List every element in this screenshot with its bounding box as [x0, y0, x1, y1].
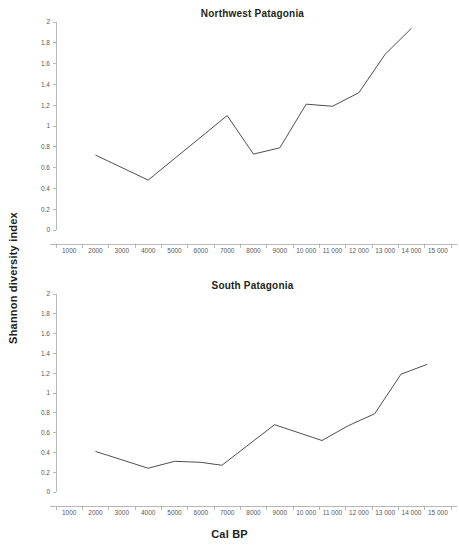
series-line	[96, 364, 428, 468]
svg-text:1.4: 1.4	[41, 350, 50, 357]
svg-text:1000: 1000	[62, 509, 77, 516]
svg-text:1000: 1000	[62, 247, 77, 254]
svg-text:11 000: 11 000	[323, 247, 343, 254]
series-line	[96, 28, 412, 180]
svg-text:1.8: 1.8	[41, 310, 50, 317]
svg-text:5000: 5000	[167, 247, 182, 254]
y-axis-title-container: Shannon diversity index	[0, 0, 26, 555]
svg-text:6000: 6000	[194, 247, 209, 254]
svg-text:0: 0	[46, 488, 50, 495]
svg-text:3000: 3000	[115, 509, 130, 516]
svg-text:2000: 2000	[88, 509, 103, 516]
svg-text:15 000: 15 000	[428, 509, 448, 516]
svg-text:5000: 5000	[167, 509, 182, 516]
svg-text:0.6: 0.6	[41, 164, 50, 171]
svg-text:2: 2	[46, 18, 50, 25]
svg-text:0.2: 0.2	[41, 469, 50, 476]
figure-shannon-diversity: Shannon diversity index Northwest Patago…	[0, 0, 459, 555]
svg-text:3000: 3000	[115, 247, 130, 254]
svg-text:10 000: 10 000	[296, 247, 316, 254]
svg-text:4000: 4000	[141, 247, 156, 254]
svg-text:2000: 2000	[88, 247, 103, 254]
svg-text:1.6: 1.6	[41, 60, 50, 67]
svg-text:9000: 9000	[273, 509, 288, 516]
plot-area-northwest-patagonia: 00.20.40.60.811.21.41.61.821000200030004…	[26, 4, 459, 266]
svg-text:2: 2	[46, 290, 50, 297]
chart-panel-northwest-patagonia: Northwest Patagonia 00.20.40.60.811.21.4…	[26, 4, 459, 266]
svg-text:14 000: 14 000	[402, 509, 422, 516]
y-axis-title: Shannon diversity index	[7, 212, 19, 344]
svg-text:7000: 7000	[220, 247, 235, 254]
svg-text:1: 1	[46, 389, 50, 396]
svg-text:0: 0	[46, 226, 50, 233]
svg-text:0.2: 0.2	[41, 206, 50, 213]
svg-text:11 000: 11 000	[323, 509, 343, 516]
svg-text:8000: 8000	[246, 247, 261, 254]
svg-text:12 000: 12 000	[349, 509, 369, 516]
svg-text:15 000: 15 000	[428, 247, 448, 254]
svg-text:0.4: 0.4	[41, 185, 50, 192]
x-axis-title: Cal BP	[0, 528, 459, 540]
svg-text:12 000: 12 000	[349, 247, 369, 254]
svg-text:4000: 4000	[141, 509, 156, 516]
svg-text:10 000: 10 000	[296, 509, 316, 516]
svg-text:1.4: 1.4	[41, 81, 50, 88]
svg-text:14 000: 14 000	[402, 247, 422, 254]
svg-text:8000: 8000	[246, 509, 261, 516]
svg-text:1.8: 1.8	[41, 39, 50, 46]
svg-text:0.8: 0.8	[41, 409, 50, 416]
svg-text:7000: 7000	[220, 509, 235, 516]
svg-text:1: 1	[46, 122, 50, 129]
svg-text:1.2: 1.2	[41, 370, 50, 377]
chart-panel-south-patagonia: South Patagonia 00.20.40.60.811.21.41.61…	[26, 276, 459, 528]
svg-text:6000: 6000	[194, 509, 209, 516]
svg-text:9000: 9000	[273, 247, 288, 254]
svg-text:1.6: 1.6	[41, 330, 50, 337]
svg-text:0.6: 0.6	[41, 429, 50, 436]
svg-text:1.2: 1.2	[41, 102, 50, 109]
svg-text:13 000: 13 000	[375, 509, 395, 516]
svg-text:0.8: 0.8	[41, 143, 50, 150]
plot-area-south-patagonia: 00.20.40.60.811.21.41.61.821000200030004…	[26, 276, 459, 528]
svg-text:0.4: 0.4	[41, 449, 50, 456]
svg-text:13 000: 13 000	[375, 247, 395, 254]
